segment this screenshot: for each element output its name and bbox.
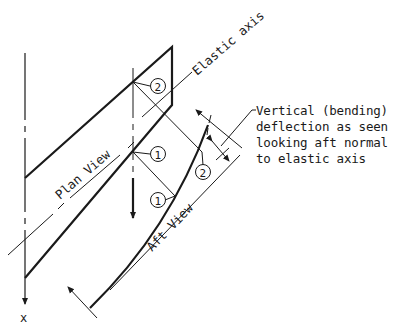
svg-text:2: 2 xyxy=(155,81,162,94)
x-axis-label: x xyxy=(20,311,27,325)
note-line-2: deflection as seen xyxy=(256,119,388,135)
note-line-3: looking aft normal xyxy=(256,135,388,151)
plan-view-label: Plan View xyxy=(52,146,113,202)
station-2-aft-callout: 2 xyxy=(196,152,211,180)
station-2-plan-callout: 2 xyxy=(133,79,166,94)
note-line-4: to elastic axis xyxy=(256,151,388,167)
svg-text:1: 1 xyxy=(155,149,162,162)
aft-view xyxy=(68,110,256,318)
svg-text:1: 1 xyxy=(155,195,162,208)
note-line-1: Vertical (bending) xyxy=(256,103,388,119)
elastic-axis-label: Elastic axis xyxy=(189,8,267,79)
svg-text:2: 2 xyxy=(200,167,207,180)
station-1-plan-callout: 1 xyxy=(133,147,166,162)
deflection-note: Vertical (bending)deflection as seenlook… xyxy=(256,103,388,167)
